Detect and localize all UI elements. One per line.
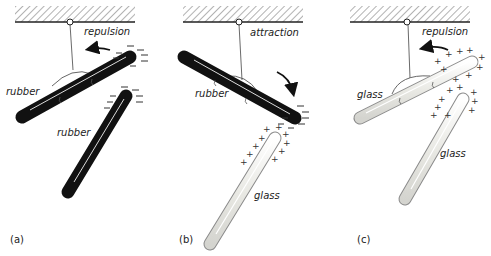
svg-text:+: + [440, 64, 448, 74]
svg-text:+: + [465, 70, 473, 80]
svg-text:+: + [430, 110, 438, 120]
attraction-arrow-icon [277, 72, 293, 92]
svg-text:+: + [456, 82, 464, 92]
panel-b: ++ ++ ++ ++ ++ [183, 6, 309, 244]
repulsion-arrow-icon [90, 48, 110, 50]
svg-text:+: + [444, 110, 452, 120]
suspension-thread [70, 24, 73, 70]
svg-text:+: + [446, 85, 454, 95]
svg-text:+: + [456, 46, 464, 56]
suspended-rod-label-c: glass [357, 89, 383, 100]
interaction-label-b: attraction [250, 27, 299, 38]
svg-text:+: + [468, 105, 476, 115]
interaction-label-a: repulsion [84, 26, 130, 37]
panel-label-c: (c) [357, 234, 370, 245]
held-rod-label-b: glass [254, 190, 280, 201]
svg-text:+: + [271, 154, 279, 164]
panel-label-a: (a) [10, 234, 24, 245]
svg-text:+: + [278, 146, 286, 156]
svg-text:+: + [240, 157, 248, 167]
ceiling [183, 6, 303, 22]
interaction-label-c: repulsion [422, 26, 468, 37]
pivot-icon [404, 19, 410, 25]
suspension-thread [239, 24, 242, 80]
ceiling [15, 6, 135, 22]
suspension-thread [408, 24, 410, 78]
suspended-rod-label-a: rubber [6, 86, 39, 97]
svg-text:+: + [466, 45, 474, 55]
ceiling [350, 6, 470, 22]
svg-text:+: + [445, 49, 453, 59]
held-rubber-rod [68, 96, 126, 192]
svg-text:+: + [478, 52, 486, 62]
suspended-rod-label-b: rubber [195, 88, 228, 99]
panel-label-b: (b) [179, 234, 193, 245]
svg-text:+: + [476, 62, 484, 72]
held-rod-label-a: rubber [57, 127, 90, 138]
held-rod-label-c: glass [440, 148, 466, 159]
